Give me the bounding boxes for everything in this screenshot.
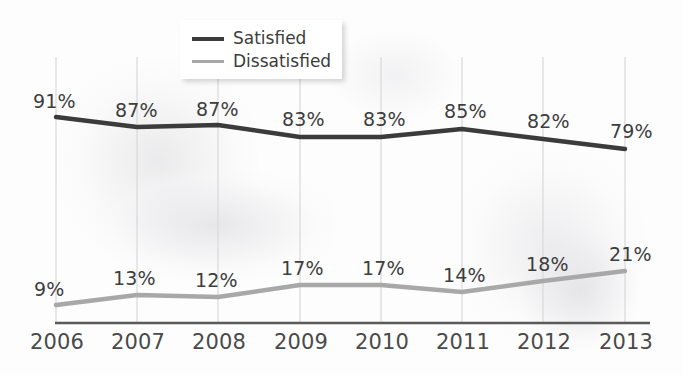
value-label-satisfied-2010: 83% (363, 108, 406, 130)
line-chart: 91% 87% 87% 83% 83% 85% 82% 79% 9% 13% 1… (0, 0, 683, 375)
value-label-dissatisfied-2013: 21% (609, 243, 652, 265)
x-tick-label-2013: 2013 (599, 330, 653, 354)
value-label-satisfied-2006: 91% (33, 90, 76, 112)
value-label-dissatisfied-2012: 18% (526, 253, 569, 275)
value-label-dissatisfied-2006: 9% (34, 278, 65, 300)
x-tick-label-2006: 2006 (30, 330, 84, 354)
x-tick-label-2011: 2011 (436, 330, 490, 354)
value-label-satisfied-2007: 87% (115, 99, 158, 121)
value-label-dissatisfied-2011: 14% (443, 264, 486, 286)
legend-label-satisfied: Satisfied (233, 30, 306, 47)
value-label-satisfied-2012: 82% (527, 110, 570, 132)
x-tick-label-2007: 2007 (111, 330, 165, 354)
x-tick-label-2008: 2008 (192, 330, 246, 354)
value-label-dissatisfied-2009: 17% (281, 257, 324, 279)
x-tick-label-2010: 2010 (355, 330, 409, 354)
value-label-satisfied-2009: 83% (282, 108, 325, 130)
value-label-satisfied-2013: 79% (610, 120, 653, 142)
legend-label-dissatisfied: Dissatisfied (233, 53, 331, 70)
value-label-satisfied-2011: 85% (444, 100, 487, 122)
value-label-dissatisfied-2007: 13% (113, 267, 156, 289)
legend: Satisfied Dissatisfied (180, 20, 342, 79)
value-label-dissatisfied-2010: 17% (362, 257, 405, 279)
legend-swatch-dissatisfied-icon (192, 60, 224, 63)
x-tick-label-2009: 2009 (274, 330, 328, 354)
x-tick-label-2012: 2012 (517, 330, 571, 354)
legend-item-satisfied[interactable]: Satisfied (192, 27, 332, 50)
value-label-satisfied-2008: 87% (196, 98, 239, 120)
legend-swatch-satisfied-icon (192, 37, 224, 41)
value-label-dissatisfied-2008: 12% (195, 269, 238, 291)
legend-item-dissatisfied[interactable]: Dissatisfied (192, 50, 332, 73)
